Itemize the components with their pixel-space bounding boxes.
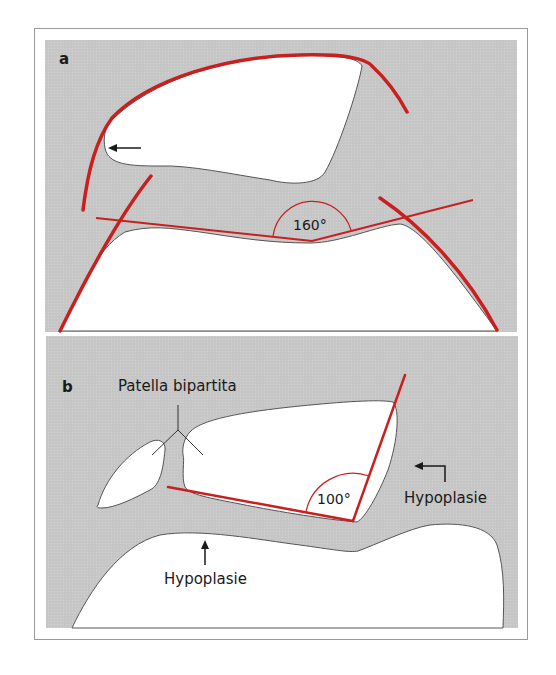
hypoplasie-right-label: Hypoplasie <box>404 489 487 507</box>
knee-diagram: a 160° b Pat <box>0 0 556 675</box>
angle-label-b: 100° <box>317 491 351 507</box>
panel-a-label: a <box>59 50 69 68</box>
angle-label-a: 160° <box>293 217 327 233</box>
panel-a: a 160° <box>45 40 517 332</box>
panel-b: b Patella bipartita 100° Hypoplasie Hypo… <box>46 336 518 628</box>
patella-bipartita-label: Patella bipartita <box>118 377 237 395</box>
hypoplasie-bottom-label: Hypoplasie <box>164 570 247 588</box>
panel-b-label: b <box>62 378 73 396</box>
